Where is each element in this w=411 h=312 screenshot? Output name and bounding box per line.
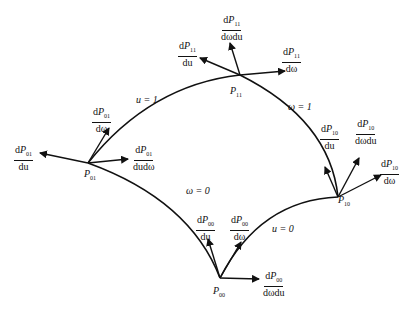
vector-label-p00-dwdu: dP00 dωdu [262,270,286,298]
diagram-lines [0,0,411,312]
point-label-p00: P00 [213,285,225,298]
point-label-p01: P01 [84,168,96,181]
vector-label-p01-dw: dP01 dω [92,106,111,134]
point-label-p11: P11 [230,85,242,98]
surface-patch-diagram: u = 1 ω = 1 ω = 0 u = 0 P11 P01 P10 P00 … [0,0,411,312]
curve-label-w1: ω = 1 [288,101,312,112]
vector-label-p10-dw: dP10 dω [380,158,399,186]
vector-label-p10-dwdu: dP10 dωdu [354,118,378,146]
vector-label-p01-du: dP01 du [14,144,33,172]
curve-label-u0: u = 0 [272,223,294,234]
vector-label-p00-du: dP00 du [196,214,215,242]
curve-label-u1: u = 1 [136,94,158,105]
vector-label-p11-dw: dP11 dω [282,46,301,74]
vector-label-p10-du: dP10 du [320,123,339,151]
curve-label-w0: ω = 0 [186,185,210,196]
vector-label-p11-dwdu: dP11 dωdu [220,14,244,42]
vector-label-p00-dw: dP00 dω [230,214,249,242]
vector-label-p01-dudw: dP01 dudω [132,144,156,172]
point-label-p10: P10 [338,194,350,207]
vector-label-p11-du: dP11 du [178,40,197,68]
